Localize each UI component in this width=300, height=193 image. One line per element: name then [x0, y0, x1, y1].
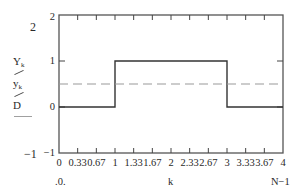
x-tick-label: 0 — [56, 158, 61, 169]
legend-label: D — [13, 99, 21, 111]
legend-entry-Yk[interactable]: Yk — [13, 56, 24, 73]
y-tick-label: 0 — [50, 102, 55, 113]
legend-entry-yk[interactable]: yk — [13, 78, 24, 95]
legend-entry-D[interactable]: D — [13, 100, 21, 111]
legend-line-sample — [14, 116, 32, 117]
x-tick-label: 2.33 — [180, 158, 198, 169]
legend-label: Y — [13, 55, 21, 67]
x-axis-label[interactable]: k — [168, 177, 173, 188]
x-tick-label: 1.67 — [143, 158, 161, 169]
data-traces — [59, 61, 283, 107]
x-tick-label: 0.33 — [68, 158, 86, 169]
x-tick-label: 2.67 — [199, 158, 217, 169]
y-tick-label: −1 — [44, 148, 55, 159]
x-tick-label: 3.67 — [255, 158, 273, 169]
x-tick-label: 4 — [280, 158, 285, 169]
x-axis-left-limit[interactable]: .0. — [55, 177, 66, 188]
x-tick-label: 0.67 — [87, 158, 105, 169]
y-axis-lower-limit[interactable]: −1 — [24, 148, 37, 160]
y-tick-label: 1 — [50, 56, 55, 67]
x-tick-label: 3.33 — [236, 158, 254, 169]
x-tick-label: 3 — [224, 158, 229, 169]
x-tick-label: 1 — [112, 158, 117, 169]
y-axis-upper-limit[interactable]: 2 — [30, 21, 36, 33]
y-tick-label: 2 — [50, 12, 55, 23]
x-tick-label: 2 — [168, 158, 173, 169]
legend-subscript: k — [19, 83, 23, 91]
legend-subscript: k — [21, 61, 25, 69]
x-tick-label: 1.33 — [124, 158, 142, 169]
x-axis-right-limit[interactable]: N−1 — [271, 177, 290, 188]
